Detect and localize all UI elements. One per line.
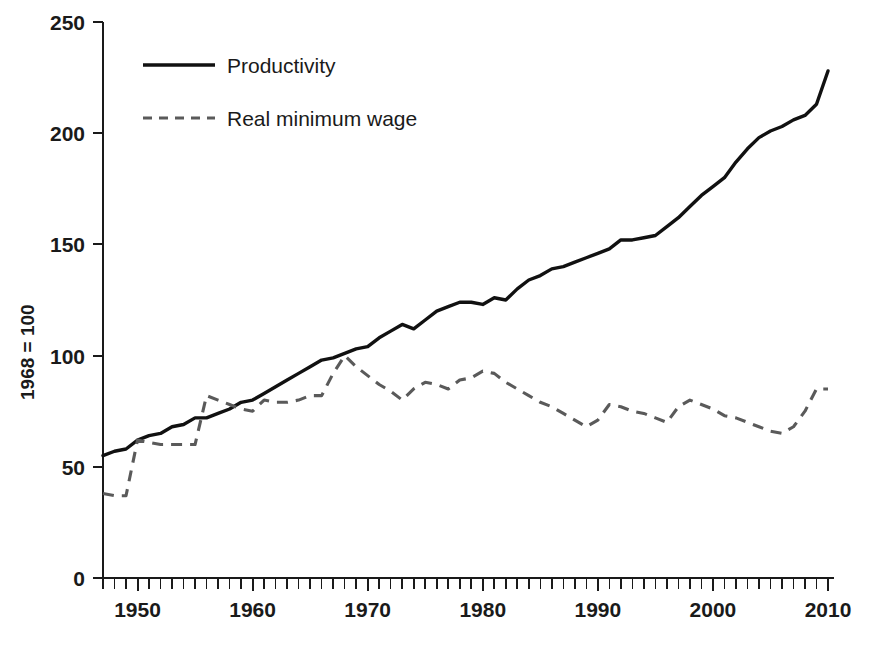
y-tick-label: 100 <box>50 345 85 368</box>
y-axis-tick-labels: 050100150200250 <box>50 11 85 590</box>
x-tick-label: 2010 <box>805 598 852 621</box>
y-tick-label: 250 <box>50 11 85 34</box>
x-tick-label: 1990 <box>574 598 621 621</box>
chart-legend: ProductivityReal minimum wage <box>143 54 417 130</box>
x-tick-label: 1970 <box>344 598 391 621</box>
y-tick-label: 200 <box>50 122 85 145</box>
x-tick-label: 2000 <box>690 598 737 621</box>
x-tick-label: 1960 <box>229 598 276 621</box>
chart-figure: 050100150200250 195019601970198019902000… <box>0 0 877 650</box>
x-axis-tick-labels: 1950196019701980199020002010 <box>114 598 851 621</box>
legend-label-productivity: Productivity <box>227 54 336 77</box>
y-tick-label: 150 <box>50 233 85 256</box>
cut-off-caption <box>112 634 532 648</box>
legend-label-real-minimum-wage: Real minimum wage <box>227 107 417 130</box>
x-tick-label: 1950 <box>114 598 161 621</box>
y-axis-title: 1968 = 100 <box>17 304 38 400</box>
line-chart: 050100150200250 195019601970198019902000… <box>0 0 877 650</box>
axes <box>103 22 834 578</box>
x-tick-label: 1980 <box>459 598 506 621</box>
y-axis-title-text: 1968 = 100 <box>17 304 38 400</box>
tick-marks <box>93 22 828 591</box>
data-series <box>103 71 828 496</box>
y-tick-label: 50 <box>62 456 85 479</box>
series-line-real-minimum-wage <box>103 356 828 496</box>
y-tick-label: 0 <box>73 567 85 590</box>
